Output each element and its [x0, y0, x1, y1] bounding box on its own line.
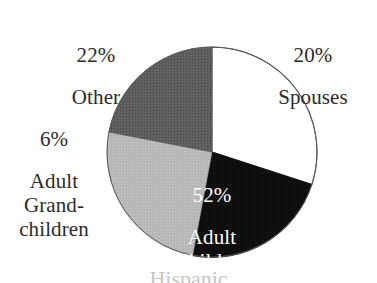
slice-name-other: Other	[44, 86, 148, 110]
slice-name-spouses: Spouses	[255, 86, 371, 110]
slice-percent-adult-grandchildren: 6%	[2, 128, 106, 152]
slice-name-adult-grandchildren: Adult Grand- children	[2, 170, 106, 242]
slice-percent-other: 22%	[44, 44, 148, 68]
slice-label-adult-children: 52% Adult Children	[146, 166, 278, 283]
figure-caption-clipped: Hispanic	[0, 270, 377, 283]
slice-percent-adult-children: 52%	[146, 184, 278, 208]
slice-percent-spouses: 20%	[255, 44, 371, 68]
pie-chart-figure: 22% Other 20% Spouses 6% Adult Grand- ch…	[0, 0, 377, 283]
slice-name-adult-children: Adult Children	[146, 226, 278, 274]
slice-label-adult-grandchildren: 6% Adult Grand- children	[2, 110, 106, 260]
slice-label-spouses: 20% Spouses	[255, 26, 371, 129]
figure-caption-text: Hispanic	[0, 270, 377, 283]
